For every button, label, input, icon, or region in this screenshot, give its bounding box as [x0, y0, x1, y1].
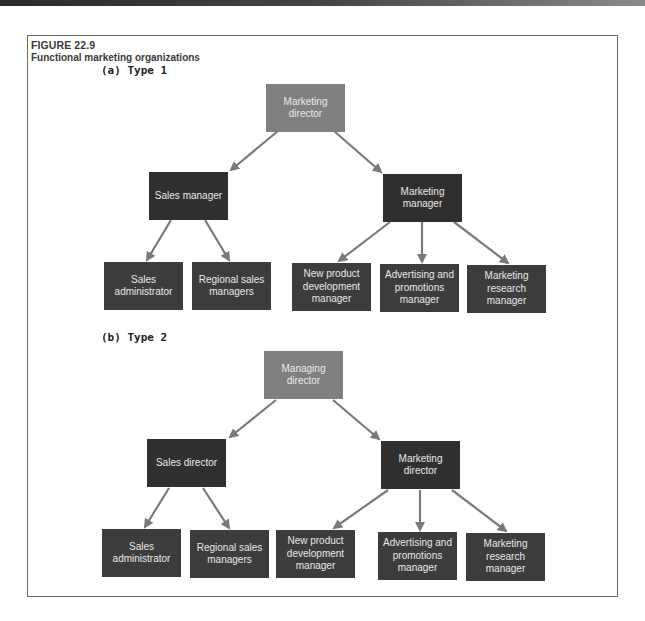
type2-label: (b) Type 2 [101, 331, 167, 344]
node-sales-administrator: Sales administrator [104, 262, 183, 310]
arrow-mkt2-to-research [452, 490, 506, 531]
node-new-product-development-manager-2: New product development manager [276, 530, 355, 578]
arrow-mkt2-to-newproduct [334, 490, 388, 528]
node-new-product-development-manager: New product development manager [292, 263, 371, 311]
node-sales-manager: Sales manager [149, 172, 228, 220]
arrow-sales2-to-regional [203, 488, 229, 528]
arrow-root-to-marketing [334, 131, 381, 172]
node-advertising-promotions-manager-2: Advertising and promotions manager [378, 532, 457, 580]
arrow-mkt-to-newproduct [339, 222, 390, 261]
node-managing-director: Managing director [264, 351, 343, 399]
node-marketing-research-manager: Marketing research manager [467, 265, 546, 313]
arrow-sales-to-admin [147, 220, 171, 260]
node-sales-director: Sales director [147, 439, 226, 487]
arrow-sales2-to-admin [145, 488, 169, 527]
node-advertising-promotions-manager: Advertising and promotions manager [380, 264, 459, 312]
type1-label: (a) Type 1 [101, 64, 167, 77]
arrow-root-to-sales [231, 131, 278, 170]
node-sales-administrator-2: Sales administrator [102, 529, 181, 577]
node-marketing-director-2: Marketing director [381, 441, 460, 489]
node-regional-sales-managers-2: Regional sales managers [190, 530, 269, 578]
arrow-sales-to-regional [205, 220, 229, 260]
node-marketing-research-manager-2: Marketing research manager [466, 533, 545, 581]
node-marketing-manager: Marketing manager [383, 174, 462, 222]
arrow-root2-to-sales [230, 400, 276, 437]
node-regional-sales-managers: Regional sales managers [192, 262, 271, 310]
arrow-mkt-to-research [454, 222, 508, 263]
arrow-root2-to-marketing [333, 400, 379, 439]
node-marketing-director: Marketing director [266, 84, 345, 132]
